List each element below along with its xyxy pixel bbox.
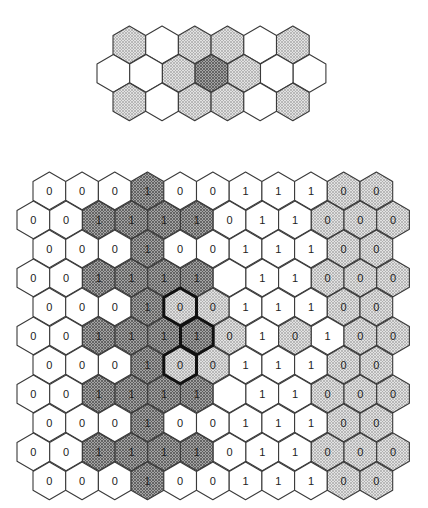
cell-value: 0: [177, 185, 183, 197]
cell-value: 0: [341, 417, 347, 429]
cell-value: 0: [112, 417, 118, 429]
cell-value: 0: [30, 272, 36, 284]
cell-value: 1: [96, 330, 102, 342]
cell-value: 1: [275, 301, 281, 313]
cell-value: 0: [226, 214, 232, 226]
cell-value: 1: [275, 243, 281, 255]
cell-value: 0: [30, 388, 36, 400]
cell-value: 0: [373, 417, 379, 429]
cell-value: 0: [210, 359, 216, 371]
cell-value: 0: [390, 446, 396, 458]
cell-value: 1: [96, 446, 102, 458]
cell-value: 1: [259, 330, 265, 342]
cell-value: 1: [128, 272, 134, 284]
cell-value: 1: [144, 359, 150, 371]
cell-value: 0: [30, 214, 36, 226]
cell-value: 1: [242, 417, 248, 429]
cell-value: 0: [357, 388, 363, 400]
cell-value: 0: [390, 214, 396, 226]
cell-value: 1: [161, 446, 167, 458]
cell-value: 0: [325, 446, 331, 458]
cell-value: 0: [357, 272, 363, 284]
cell-value: 0: [373, 185, 379, 197]
cell-value: 0: [357, 330, 363, 342]
cell-value: 0: [177, 475, 183, 487]
cell-value: 1: [161, 214, 167, 226]
cell-value: 1: [96, 214, 102, 226]
cell-value: 0: [46, 243, 52, 255]
cell-value: 0: [341, 185, 347, 197]
cell-value: 0: [30, 330, 36, 342]
cell-value: 0: [112, 243, 118, 255]
cell-value: 0: [63, 446, 69, 458]
cell-value: 0: [210, 301, 216, 313]
cell-value: 0: [357, 214, 363, 226]
cell-value: 0: [46, 301, 52, 313]
cell-value: 0: [79, 359, 85, 371]
cell-value: 0: [210, 417, 216, 429]
cell-value: 0: [177, 243, 183, 255]
cell-value: 0: [341, 301, 347, 313]
cell-value: 1: [242, 301, 248, 313]
cell-value: 0: [63, 272, 69, 284]
cell-value: 0: [226, 446, 232, 458]
cell-value: 1: [292, 446, 298, 458]
cell-value: 1: [194, 388, 200, 400]
cell-value: 1: [194, 214, 200, 226]
cell-value: 1: [144, 185, 150, 197]
cell-value: 0: [210, 185, 216, 197]
cell-value: 1: [161, 272, 167, 284]
cell-value: 0: [390, 272, 396, 284]
cell-value: 1: [308, 417, 314, 429]
cell-value: 1: [259, 388, 265, 400]
cell-value: 1: [308, 301, 314, 313]
cell-value: 1: [128, 214, 134, 226]
cell-value: 1: [242, 475, 248, 487]
cell-value: 0: [325, 214, 331, 226]
cell-value: 0: [325, 272, 331, 284]
cell-value: 0: [46, 475, 52, 487]
cell-value: 0: [390, 388, 396, 400]
cell-value: 1: [194, 272, 200, 284]
cell-value: 0: [341, 359, 347, 371]
cell-value: 0: [30, 446, 36, 458]
cell-value: 1: [128, 330, 134, 342]
cell-value: 1: [292, 214, 298, 226]
cell-value: 0: [177, 417, 183, 429]
cell-value: 0: [79, 301, 85, 313]
cell-value: 0: [292, 330, 298, 342]
cell-value: 1: [128, 446, 134, 458]
cell-value: 0: [226, 330, 232, 342]
neighborhood-strip: [97, 26, 326, 121]
cell-value: 1: [308, 243, 314, 255]
cell-value: 1: [292, 388, 298, 400]
cell-value: 1: [275, 417, 281, 429]
cell-value: 0: [112, 475, 118, 487]
cell-value: 0: [325, 388, 331, 400]
cell-value: 1: [96, 272, 102, 284]
cell-value: 0: [46, 417, 52, 429]
cell-value: 1: [292, 272, 298, 284]
cell-value: 1: [259, 446, 265, 458]
cell-value: 1: [275, 475, 281, 487]
cell-value: 0: [112, 359, 118, 371]
cell-value: 1: [275, 185, 281, 197]
cell-value: 1: [128, 388, 134, 400]
cell-value: 1: [194, 330, 200, 342]
cell-value: 0: [373, 359, 379, 371]
cell-value: 0: [373, 475, 379, 487]
cell-value: 0: [373, 301, 379, 313]
cell-value: 0: [79, 475, 85, 487]
cell-value: 1: [259, 214, 265, 226]
cell-value: 0: [112, 301, 118, 313]
cell-value: 0: [341, 243, 347, 255]
cell-value: 1: [259, 272, 265, 284]
cell-value: 1: [308, 185, 314, 197]
cell-value: 0: [46, 185, 52, 197]
cell-value: 0: [63, 214, 69, 226]
cell-value: 1: [144, 243, 150, 255]
cell-value: 0: [210, 243, 216, 255]
cell-value: 0: [46, 359, 52, 371]
cell-value: 0: [390, 330, 396, 342]
cell-value: 0: [63, 388, 69, 400]
